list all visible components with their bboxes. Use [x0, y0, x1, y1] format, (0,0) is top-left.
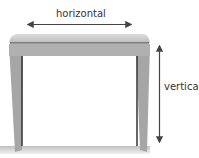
right-leg [136, 44, 150, 152]
vertical-label: vertical [164, 81, 199, 92]
table-apron [9, 44, 150, 56]
table-diagram [0, 0, 199, 158]
floor-shadow [0, 146, 150, 154]
horizontal-label: horizontal [56, 8, 106, 19]
left-leg [9, 44, 23, 152]
table-top [9, 34, 150, 43]
